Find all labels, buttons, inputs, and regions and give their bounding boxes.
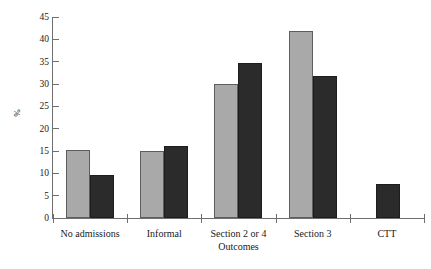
x-axis-tick-label: CTT	[350, 227, 424, 240]
bar-group	[53, 17, 127, 218]
y-axis-tick-label: 20	[27, 123, 49, 135]
bar-light	[66, 150, 90, 218]
x-axis-title: Outcomes	[201, 240, 275, 253]
bar-group	[350, 17, 424, 218]
plot-area	[53, 17, 424, 218]
y-axis-title: %	[12, 102, 22, 124]
bar-dark	[376, 184, 400, 218]
y-axis-tick-label: 0	[27, 212, 49, 224]
y-axis-tick-label: 30	[27, 78, 49, 90]
bar-dark	[164, 146, 188, 218]
y-axis-tick-label: 45	[27, 11, 49, 23]
x-axis-tick-label: No admissions	[53, 227, 127, 240]
bar-light	[214, 84, 238, 218]
bar-group	[201, 17, 275, 218]
bar-chart: % 051015202530354045 No admissionsInform…	[0, 0, 431, 269]
x-axis-tick-label: Informal	[127, 227, 201, 240]
x-axis-tick-label: Section 2 or 4	[201, 227, 275, 240]
y-axis-tick-label: 15	[27, 145, 49, 157]
y-axis-tick-label: 10	[27, 167, 49, 179]
bar-light	[140, 151, 164, 218]
y-axis-tick-label: 35	[27, 56, 49, 68]
x-axis-line	[52, 218, 424, 219]
bar-light	[289, 31, 313, 218]
y-axis-tick-label: 25	[27, 100, 49, 112]
x-axis-tick-label: Section 3	[276, 227, 350, 240]
y-axis-tick-label: 40	[27, 33, 49, 45]
bar-group	[276, 17, 350, 218]
y-axis-tick-label: 5	[27, 190, 49, 202]
bar-group	[127, 17, 201, 218]
bar-dark	[313, 76, 337, 218]
bar-dark	[90, 175, 114, 218]
x-axis-separator-mark	[424, 214, 425, 223]
bar-dark	[238, 63, 262, 218]
